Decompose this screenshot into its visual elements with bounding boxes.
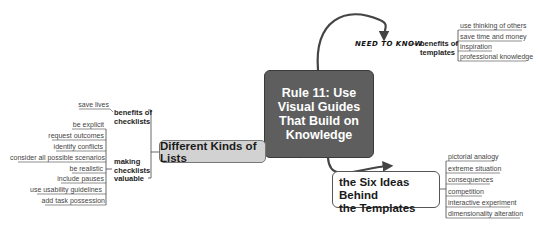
- leaf-add-task-possession[interactable]: add task possession: [0, 196, 105, 205]
- six-ideas-line1: the Six Ideas Behind: [339, 176, 433, 202]
- making-checklists-line3: valuable: [114, 175, 150, 184]
- leaf-inspiration[interactable]: inspiration: [460, 42, 492, 51]
- need-to-know-annotation: NEED TO KNOW: [355, 40, 423, 48]
- leaf-identify-conflicts[interactable]: identify conflicts: [0, 142, 103, 151]
- leaf-consider-all-possible-scenarios[interactable]: consider all possible scenarios: [0, 153, 105, 162]
- leaf-competition[interactable]: competition: [448, 187, 484, 196]
- leaf-pictorial-analogy[interactable]: pictorial analogy: [448, 152, 499, 161]
- central-topic-node[interactable]: Rule 11: Use Visual Guides That Build on…: [264, 70, 374, 158]
- different-kinds-of-lists-node[interactable]: Different Kinds of Lists: [159, 140, 266, 163]
- different-kinds-of-lists-label: Different Kinds of Lists: [160, 140, 265, 164]
- leaf-save-lives[interactable]: save lives: [60, 100, 109, 109]
- benefits-of-templates-line2: templates: [420, 49, 458, 58]
- leaf-extreme-situation[interactable]: extreme situation: [448, 164, 501, 173]
- six-ideas-node[interactable]: the Six Ideas Behind the Templates: [332, 171, 440, 208]
- central-topic-label: Rule 11: Use Visual Guides That Build on…: [269, 86, 369, 142]
- benefits-of-checklists-node[interactable]: benefits of checklists: [114, 109, 152, 126]
- leaf-use-thinking-of-others[interactable]: use thinking of others: [460, 21, 527, 30]
- benefits-of-templates-node[interactable]: benefits of templates: [420, 40, 458, 57]
- leaf-be-realistic[interactable]: be realistic: [0, 164, 103, 173]
- leaf-request-outcomes[interactable]: request outcomes: [0, 131, 104, 140]
- making-checklists-valuable-node[interactable]: making checklists valuable: [114, 158, 150, 184]
- benefits-of-checklists-line2: checklists: [114, 118, 152, 127]
- six-ideas-line2: the Templates: [339, 202, 433, 215]
- leaf-consequences[interactable]: consequences: [448, 175, 493, 184]
- leaf-be-explicit[interactable]: be explicit: [0, 120, 104, 129]
- leaf-professional-knowledge[interactable]: professional knowledge: [460, 52, 533, 61]
- leaf-interactive-experiment[interactable]: interactive experiment: [448, 198, 516, 207]
- leaf-save-time-and-money[interactable]: save time and money: [460, 32, 527, 41]
- leaf-include-pauses[interactable]: include pauses: [0, 174, 104, 183]
- leaf-use-usability-guidelines[interactable]: use usability guidelines: [0, 185, 102, 194]
- leaf-dimensionality-alteration[interactable]: dimensionality alteration: [448, 209, 523, 218]
